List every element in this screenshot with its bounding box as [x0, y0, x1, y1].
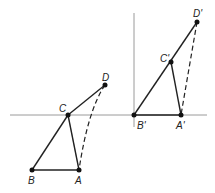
- point-A: [77, 168, 82, 173]
- point-D: [103, 83, 108, 88]
- label-B: B: [28, 175, 35, 186]
- point-C-prime: [169, 60, 174, 65]
- dashed-D'A': [181, 22, 197, 115]
- segment-B'D': [134, 22, 197, 115]
- label-C-prime: C': [160, 53, 170, 64]
- point-D-prime: [195, 20, 200, 25]
- point-A-prime: [179, 113, 184, 118]
- label-A-prime: A': [175, 120, 186, 131]
- point-C: [66, 113, 71, 118]
- label-C: C: [59, 103, 67, 114]
- point-B-prime: [132, 113, 137, 118]
- label-D-prime: D': [193, 8, 203, 19]
- segment-BC: [32, 115, 68, 170]
- right-figure: B' A' C' D': [132, 8, 204, 131]
- point-B: [30, 168, 35, 173]
- diagram-canvas: B A C D B' A' C' D': [0, 0, 215, 193]
- left-figure: B A C D: [28, 72, 109, 186]
- dashed-arc-DA: [79, 85, 105, 170]
- segment-CD: [68, 85, 105, 115]
- segment-C'A': [171, 62, 181, 115]
- label-A: A: [74, 175, 82, 186]
- segment-CA: [68, 115, 79, 170]
- label-D: D: [102, 72, 109, 83]
- label-B-prime: B': [137, 120, 147, 131]
